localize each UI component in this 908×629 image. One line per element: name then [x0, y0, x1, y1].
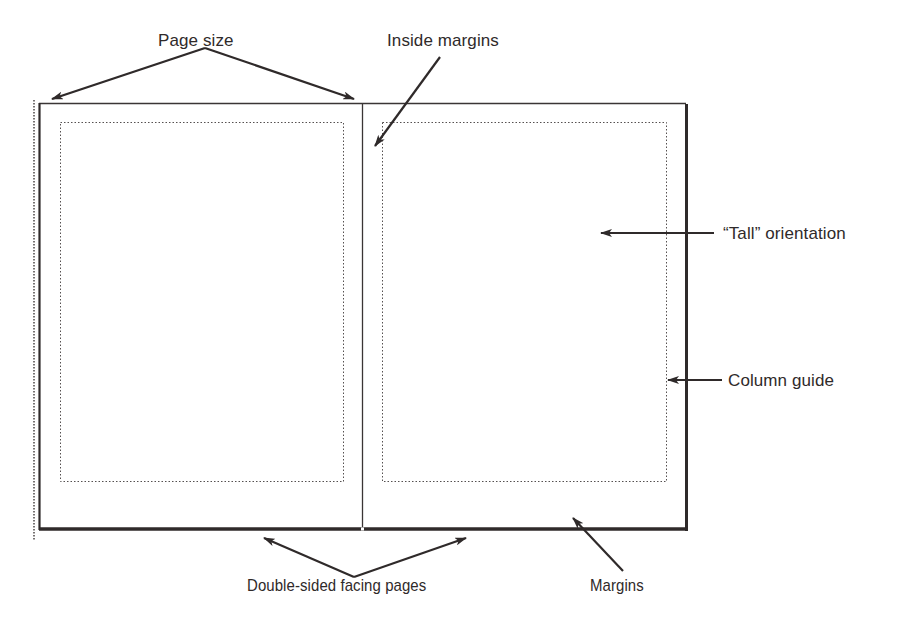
page-spread — [39, 103, 688, 531]
label-inside-margins: Inside margins — [387, 31, 499, 51]
double-sided-arrow-right — [354, 538, 466, 577]
right-page-margin-guide — [383, 123, 667, 482]
page-layout-diagram — [0, 0, 908, 629]
label-margins: Margins — [590, 576, 644, 596]
page-size-arrow-left — [52, 48, 205, 99]
label-column-guide: Column guide — [728, 371, 834, 391]
label-page-size: Page size — [158, 31, 234, 51]
label-double-sided-facing-pages: Double-sided facing pages — [247, 576, 426, 596]
page-size-arrow-right — [205, 48, 354, 99]
inside-margins-arrow — [375, 57, 440, 146]
left-page-margin-guide — [61, 123, 344, 482]
spine-gap — [361, 528, 364, 531]
double-sided-arrow-left — [264, 538, 354, 577]
annotation-arrows — [52, 48, 722, 577]
margins-arrow — [573, 518, 623, 571]
label-tall-orientation: “Tall” orientation — [723, 224, 846, 244]
